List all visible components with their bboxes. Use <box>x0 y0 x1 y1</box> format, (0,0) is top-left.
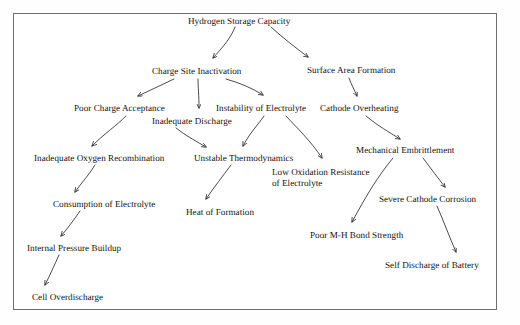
node-surface-area-formation[interactable]: Surface Area Formation <box>307 65 395 76</box>
node-inadequate-oxygen-recombination[interactable]: Inadequate Oxygen Recombination <box>34 153 164 164</box>
node-unstable-thermodynamics[interactable]: Unstable Thermodynamics <box>194 153 293 164</box>
node-poor-mh-bond-strength[interactable]: Poor M-H Bond Strength <box>310 230 403 241</box>
node-inadequate-discharge[interactable]: Inadequate Discharge <box>152 116 232 127</box>
node-charge-site-inactivation[interactable]: Charge Site Inactivation <box>152 66 241 77</box>
node-hydrogen-storage-capacity[interactable]: Hydrogen Storage Capacity <box>188 16 290 27</box>
node-cell-overdischarge[interactable]: Cell Overdischarge <box>32 292 103 303</box>
node-poor-charge-acceptance[interactable]: Poor Charge Acceptance <box>74 103 165 114</box>
node-low-oxidation-resistance-of-electrolyte[interactable]: Low Oxidation Resistance of Electrolyte <box>272 167 370 189</box>
node-severe-cathode-corrosion[interactable]: Severe Cathode Corrosion <box>379 194 476 205</box>
node-self-discharge-of-battery[interactable]: Self Discharge of Battery <box>385 260 479 271</box>
node-mechanical-embrittlement[interactable]: Mechanical Embrittlement <box>356 145 454 156</box>
node-cathode-overheating[interactable]: Cathode Overheating <box>320 103 398 114</box>
causal-diagram: Hydrogen Storage Capacity Charge Site In… <box>0 0 520 325</box>
node-heat-of-formation[interactable]: Heat of Formation <box>186 207 254 218</box>
node-consumption-of-electrolyte[interactable]: Consumption of Electrolyte <box>53 199 155 210</box>
node-internal-pressure-buildup[interactable]: Internal Pressure Buildup <box>27 243 121 254</box>
node-instability-of-electrolyte[interactable]: Instability of Electrolyte <box>216 103 306 114</box>
